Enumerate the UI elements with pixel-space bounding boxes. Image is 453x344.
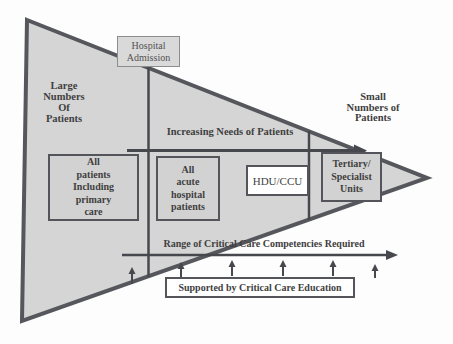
education-up-arrow-6 — [372, 264, 379, 278]
hospital-admission-box: Hospital Admission — [117, 36, 180, 67]
large-numbers-label: Large Numbers Of Patients — [32, 80, 96, 124]
patient-group-box-acute-hospital: All acute hospital patients — [156, 156, 220, 221]
range-competencies-label: Range of Critical Care Competencies Requ… — [144, 238, 384, 249]
patient-group-box-hdu-ccu: HDU/CCU — [246, 165, 309, 196]
patient-group-box-all-patients: All patients Including primary care — [48, 154, 139, 221]
small-numbers-label: Small Numbers of Patients — [335, 92, 411, 124]
patient-group-box-tertiary-specialist: Tertiary/ Specialist Units — [321, 152, 382, 202]
increasing-needs-label: Increasing Needs of Patients — [120, 126, 340, 137]
supported-by-education-box: Supported by Critical Care Education — [165, 277, 355, 298]
education-up-arrow-4 — [280, 260, 287, 276]
education-up-arrow-3 — [229, 260, 236, 276]
critical-care-funnel-diagram: Hospital Admission Large Numbers Of Pati… — [0, 0, 453, 344]
education-up-arrow-5 — [330, 260, 337, 276]
